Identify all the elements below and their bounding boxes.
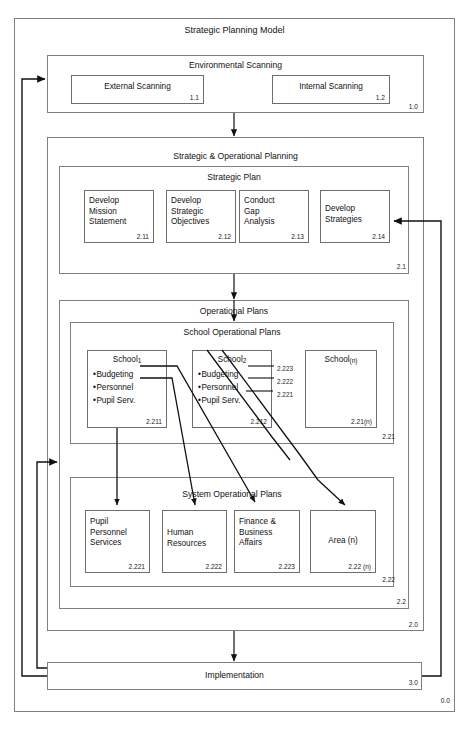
develop-strategic-objectives-box[interactable]: Develop Strategic Objectives 2.12 — [166, 190, 236, 243]
area-n-label: Area (n) — [315, 536, 371, 547]
external-scanning-box[interactable]: External Scanning 1.1 — [71, 75, 204, 104]
school-2-item-personnel: Personnel — [198, 381, 240, 394]
implementation-code: 3.0 — [409, 679, 418, 686]
environmental-scanning-code: 1.0 — [409, 103, 418, 110]
external-scanning-code: 1.1 — [190, 94, 199, 101]
operational-plans-title: Operational Plans — [59, 306, 409, 316]
school-1-item-budgeting: Budgeting — [93, 368, 135, 381]
develop-strategies-code: 2.14 — [372, 233, 385, 240]
pupil-personnel-services-label: Pupil Personnel Services — [90, 517, 145, 549]
internal-scanning-box[interactable]: Internal Scanning 1.2 — [272, 75, 390, 104]
finance-business-affairs-box[interactable]: Finance & Business Affairs 2.223 — [234, 510, 300, 573]
school-2-name: School — [218, 355, 243, 364]
environmental-scanning-title: Environmental Scanning — [47, 60, 424, 70]
develop-strategic-objectives-label: Develop Strategic Objectives — [171, 196, 231, 228]
area-n-code: 2.22 (n) — [348, 563, 371, 570]
school-1-label: School1 — [92, 355, 162, 367]
school-1-item-personnel: Personnel — [93, 381, 135, 394]
develop-strategies-box[interactable]: Develop Strategies 2.14 — [320, 190, 390, 243]
system-operational-plans-title: System Operational Plans — [70, 489, 394, 499]
human-resources-code: 2.222 — [205, 563, 222, 570]
pupil-personnel-services-box[interactable]: Pupil Personnel Services 2.221 — [85, 510, 150, 573]
school-n-label: School(n) — [310, 355, 372, 367]
school-2-box[interactable]: School2 Budgeting Personnel Pupil Serv. … — [192, 350, 272, 428]
finance-business-affairs-code: 2.223 — [278, 563, 295, 570]
human-resources-box[interactable]: Human Resources 2.222 — [162, 510, 227, 573]
strategic-plan-title: Strategic Plan — [59, 172, 409, 182]
implementation-title: Implementation — [47, 670, 422, 680]
strategic-planning-diagram: Strategic Planning Model 0.0 Environment… — [0, 0, 469, 730]
school-n-code: 2.21(n) — [351, 418, 372, 425]
strategic-operational-planning-title: Strategic & Operational Planning — [47, 151, 424, 161]
school-2-item-code-budgeting: 2.223 — [277, 365, 293, 372]
school-1-item-pupil-serv: Pupil Serv. — [93, 394, 135, 407]
human-resources-label: Human Resources — [167, 528, 222, 549]
school-1-items: Budgeting Personnel Pupil Serv. — [93, 368, 135, 407]
finance-business-affairs-label: Finance & Business Affairs — [239, 517, 295, 549]
conduct-gap-analysis-label: Conduct Gap Analysis — [244, 196, 304, 228]
internal-scanning-code: 1.2 — [376, 94, 385, 101]
conduct-gap-analysis-code: 2.13 — [291, 233, 304, 240]
school-2-index: 2 — [243, 357, 247, 364]
school-1-name: School — [113, 355, 138, 364]
page-title: Strategic Planning Model — [14, 25, 455, 35]
school-operational-plans-title: School Operational Plans — [70, 327, 394, 337]
school-1-code: 2.211 — [146, 418, 162, 425]
school-1-box[interactable]: School1 Budgeting Personnel Pupil Serv. … — [87, 350, 167, 428]
develop-mission-statement-code: 2.11 — [137, 233, 149, 240]
school-2-item-budgeting: Budgeting — [198, 368, 240, 381]
develop-strategic-objectives-code: 2.12 — [218, 233, 231, 240]
school-1-index: 1 — [138, 357, 142, 364]
school-2-code: 2.212 — [250, 418, 267, 425]
school-2-item-pupil-serv: Pupil Serv. — [198, 394, 240, 407]
school-2-item-code-personnel: 2.222 — [277, 378, 293, 385]
strategic-plan-code: 2.1 — [397, 263, 406, 270]
develop-strategies-label: Develop Strategies — [325, 204, 385, 225]
external-scanning-label: External Scanning — [76, 82, 199, 93]
school-n-name: School — [325, 355, 350, 364]
school-n-index: (n) — [350, 357, 358, 364]
area-n-box[interactable]: Area (n) 2.22 (n) — [310, 510, 376, 573]
develop-mission-statement-box[interactable]: Develop Mission Statement 2.11 — [84, 190, 154, 243]
system-operational-plans-code: 2.22 — [382, 576, 395, 583]
pupil-personnel-services-code: 2.221 — [128, 563, 145, 570]
school-2-items: Budgeting Personnel Pupil Serv. — [198, 368, 240, 407]
operational-plans-code: 2.2 — [397, 598, 406, 605]
school-n-box[interactable]: School(n) 2.21(n) — [305, 350, 377, 428]
outer-frame-code: 0.0 — [441, 697, 450, 704]
school-2-item-code-pupil-serv: 2.221 — [277, 391, 293, 398]
internal-scanning-label: Internal Scanning — [277, 82, 385, 93]
strategic-operational-planning-code: 2.0 — [409, 621, 418, 628]
school-2-label: School2 — [197, 355, 267, 367]
develop-mission-statement-label: Develop Mission Statement — [89, 196, 149, 228]
conduct-gap-analysis-box[interactable]: Conduct Gap Analysis 2.13 — [239, 190, 309, 243]
school-operational-plans-code: 2.21 — [382, 433, 395, 440]
